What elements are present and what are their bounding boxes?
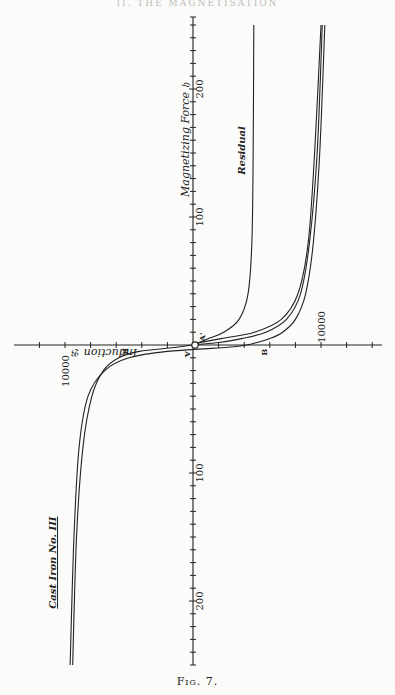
- point-label: A': [197, 333, 207, 343]
- residual-curve: [193, 25, 254, 345]
- residual-annotation: Residual: [236, 126, 247, 176]
- point-label: B: [259, 348, 269, 355]
- y-tick-label: 200: [194, 591, 205, 610]
- point-label: A: [183, 350, 193, 358]
- origin-marker: [192, 342, 198, 348]
- x-tick-label: 10000: [60, 355, 71, 387]
- figure-caption: Fig. 7.: [0, 675, 395, 688]
- y-tick-label: 100: [194, 463, 205, 482]
- initial-magnetization-curve: [193, 25, 321, 345]
- y-tick-label: 200: [194, 79, 205, 98]
- x-tick-label: 10000: [316, 311, 327, 343]
- y-tick-label: 100: [194, 207, 205, 226]
- point-label: B: [121, 348, 131, 355]
- chart: 2001001002001000010000Magnetizing Force …: [0, 0, 395, 695]
- y-axis-title: Magnetizing Force 𝔥: [179, 83, 192, 198]
- chart-title: Cast Iron No. III: [47, 516, 58, 608]
